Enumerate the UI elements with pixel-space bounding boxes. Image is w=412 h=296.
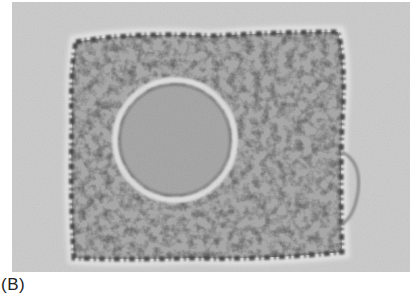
- panel-label: (B): [1, 275, 25, 295]
- cell-micrograph: [12, 2, 410, 272]
- cell-image: [12, 2, 410, 272]
